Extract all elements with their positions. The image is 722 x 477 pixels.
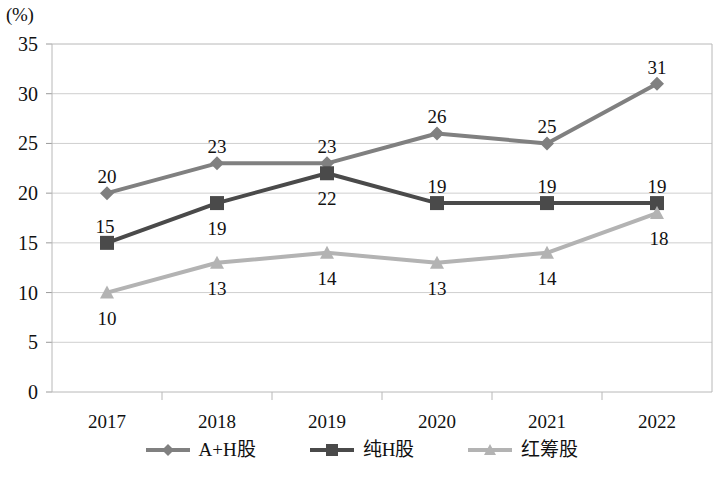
x-axis-tick-label: 2021 [512, 412, 582, 431]
x-axis-tick-label: 2020 [402, 412, 472, 431]
series-lines [100, 77, 664, 299]
y-axis-tick-label: 35 [0, 34, 38, 54]
series-line [107, 84, 657, 193]
square-marker [308, 441, 356, 459]
x-axis-tick-label: 2022 [622, 412, 692, 431]
data-point-label: 19 [192, 219, 242, 238]
data-point-label: 14 [302, 269, 352, 288]
square-marker [430, 196, 444, 210]
triangle-marker [466, 441, 514, 459]
x-axis-tick-label: 2017 [72, 412, 142, 431]
data-point-label: 10 [82, 309, 132, 328]
series-line [107, 173, 657, 243]
y-axis-tick-label: 30 [0, 84, 38, 104]
data-point-label: 19 [522, 177, 572, 196]
legend-item[interactable]: 纯H股 [308, 440, 415, 459]
data-point-label: 13 [412, 279, 462, 298]
diamond-marker [430, 126, 444, 140]
y-axis-tick-label: 10 [0, 283, 38, 303]
square-marker [320, 166, 334, 180]
x-axis-ticks [162, 392, 602, 400]
line-chart: (%) 05101520253035 201720182019202020212… [0, 0, 722, 477]
legend-item[interactable]: A+H股 [144, 440, 256, 459]
diamond-marker [100, 186, 114, 200]
data-point-label: 26 [412, 107, 462, 126]
x-axis-tick-label: 2018 [182, 412, 252, 431]
data-point-label: 31 [632, 58, 682, 77]
legend-label: 红筹股 [521, 440, 578, 459]
plot-frame [52, 44, 712, 392]
diamond-marker [144, 441, 192, 459]
square-marker [540, 196, 554, 210]
y-axis-tick-label: 15 [0, 233, 38, 253]
diamond-marker [162, 444, 174, 456]
y-axis-tick-label: 20 [0, 183, 38, 203]
data-point-label: 19 [632, 177, 682, 196]
data-point-label: 23 [302, 137, 352, 156]
data-point-label: 22 [302, 189, 352, 208]
x-axis-tick-label: 2019 [292, 412, 362, 431]
data-point-label: 15 [80, 217, 130, 236]
legend-item[interactable]: 红筹股 [466, 440, 578, 459]
y-axis-tick-label: 25 [0, 133, 38, 153]
data-point-label: 23 [192, 137, 242, 156]
data-point-label: 14 [522, 269, 572, 288]
data-point-label: 19 [412, 177, 462, 196]
legend-label: 纯H股 [363, 440, 415, 459]
data-point-label: 18 [634, 229, 684, 248]
y-axis-tick-label: 5 [0, 332, 38, 352]
chart-legend: A+H股纯H股红筹股 [0, 440, 722, 459]
square-marker [100, 236, 114, 250]
series-line [107, 213, 657, 293]
data-point-label: 13 [192, 279, 242, 298]
data-point-label: 25 [522, 117, 572, 136]
plot-area [0, 0, 722, 477]
gridlines [46, 44, 712, 392]
square-marker [326, 444, 338, 456]
data-point-label: 20 [82, 167, 132, 186]
y-axis-tick-label: 0 [0, 382, 38, 402]
diamond-marker [210, 156, 224, 170]
legend-label: A+H股 [199, 440, 256, 459]
square-marker [210, 196, 224, 210]
